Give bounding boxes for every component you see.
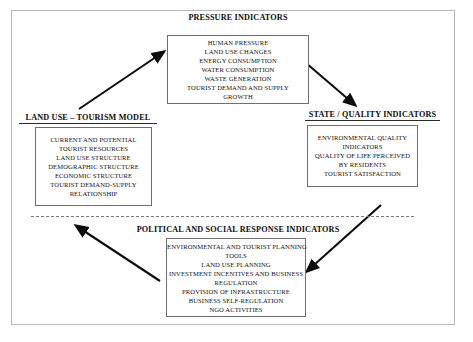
- node-box-land-use: CURRENT AND POTENTIAL TOURIST RESOURCES …: [35, 127, 152, 206]
- node-line: LAND USE STRUCTURE: [36, 153, 151, 162]
- node-line: TOURIST SATISFACTION: [308, 170, 417, 179]
- node-line: TOURIST DEMAND-SUPPLY: [36, 180, 151, 189]
- node-line: TOURIST RESOURCES: [36, 144, 151, 153]
- node-title-response: POLITICAL AND SOCIAL RESPONSE INDICATORS: [134, 225, 342, 234]
- node-title-state: STATE / QUALITY INDICATORS: [305, 110, 440, 121]
- node-line: HUMAN PRESSURE: [168, 38, 308, 47]
- diagram-canvas: PRESSURE INDICATORS HUMAN PRESSURE LAND …: [0, 0, 473, 342]
- node-lines-state: ENVIRONMENTAL QUALITY INDICATORS QUALITY…: [308, 133, 417, 178]
- node-line: ENVIRONMENTAL AND TOURIST PLANNING: [167, 241, 305, 250]
- node-line: ENERGY CONSUMPTION: [168, 56, 308, 65]
- node-title-land-use: LAND USE – TOURISM MODEL: [19, 113, 157, 124]
- node-line: BUSINESS SELF-REGULATION: [167, 296, 305, 305]
- node-line: REGULATION: [167, 278, 305, 287]
- node-line: PROVISION OF INFRASTRUCTURE: [167, 287, 305, 296]
- node-line: GROWTH: [168, 92, 308, 101]
- node-line: WATER CONSUMPTION: [168, 65, 308, 74]
- node-title-pressure: PRESSURE INDICATORS: [169, 13, 307, 22]
- node-line: ECONOMIC STRUCTURE: [36, 171, 151, 180]
- node-lines-land-use: CURRENT AND POTENTIAL TOURIST RESOURCES …: [36, 135, 151, 199]
- node-line: WASTE GENERATION: [168, 74, 308, 83]
- node-box-response: ENVIRONMENTAL AND TOURIST PLANNING TOOLS…: [166, 238, 306, 317]
- node-line: RELATIONSHIP: [36, 189, 151, 198]
- node-lines-pressure: HUMAN PRESSURE LAND USE CHANGES ENERGY C…: [168, 38, 308, 102]
- node-box-state: ENVIRONMENTAL QUALITY INDICATORS QUALITY…: [307, 125, 418, 187]
- node-line: LAND USE CHANGES: [168, 47, 308, 56]
- dotted-divider: [31, 216, 414, 217]
- node-line: TOOLS: [167, 250, 305, 259]
- node-line: LAND USE PLANNING: [167, 259, 305, 268]
- node-lines-response: ENVIRONMENTAL AND TOURIST PLANNING TOOLS…: [167, 241, 305, 314]
- node-box-pressure: HUMAN PRESSURE LAND USE CHANGES ENERGY C…: [167, 35, 309, 104]
- node-line: NGO ACTIVITIES: [167, 305, 305, 314]
- node-line: BY RESIDENTS: [308, 161, 417, 170]
- node-line: QUALITY OF LIFE PERCEIVED: [308, 151, 417, 160]
- node-line: CURRENT AND POTENTIAL: [36, 135, 151, 144]
- node-line: TOURIST DEMAND AND SUPPLY: [168, 83, 308, 92]
- node-line: INVESTMENT INCENTIVES AND BUSINESS: [167, 268, 305, 277]
- node-line: ENVIRONMENTAL QUALITY: [308, 133, 417, 142]
- node-line: DEMOGRAPHIC STRUCTURE: [36, 162, 151, 171]
- node-line: INDICATORS: [308, 142, 417, 151]
